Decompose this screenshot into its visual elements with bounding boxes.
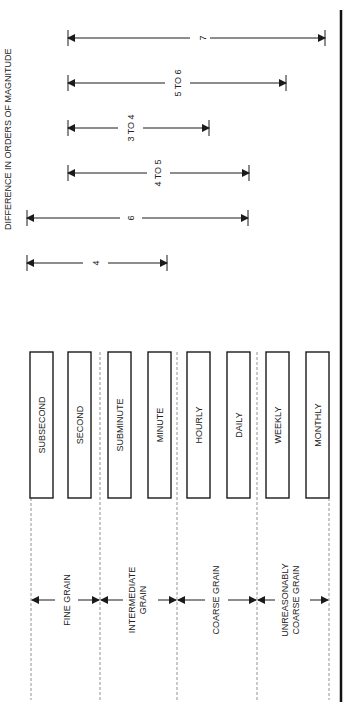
svg-text:MINUTE: MINUTE [155,408,165,443]
svg-text:COARSE GRAIN: COARSE GRAIN [211,565,221,634]
svg-text:SUBMINUTE: SUBMINUTE [115,398,125,451]
svg-text:FINE GRAIN: FINE GRAIN [62,574,72,626]
svg-text:4: 4 [91,260,101,265]
span-7 [68,30,325,46]
svg-text:7: 7 [198,35,208,40]
span-3-to-4 [68,120,209,136]
span-6 [27,210,248,226]
svg-text:WEEKLY: WEEKLY [273,407,283,444]
svg-text:5 TO 6: 5 TO 6 [173,69,183,96]
svg-text:SECOND: SECOND [75,405,85,444]
svg-text:INTERMEDIATE: INTERMEDIATE [127,567,137,633]
svg-text:MONTHLY: MONTHLY [313,403,323,446]
axis-title: DIFFERENCE IN ORDERS OF MAGNITUDE [3,48,13,230]
svg-text:6: 6 [126,215,136,220]
svg-text:COARSE GRAIN: COARSE GRAIN [291,565,301,634]
svg-text:GRAIN: GRAIN [138,586,148,615]
granularity-diagram: DIFFERENCE IN ORDERS OF MAGNITUDE [0,0,351,704]
svg-text:3 TO 4: 3 TO 4 [126,114,136,141]
span-labels: 7 5 TO 6 3 TO 4 4 TO 5 6 4 [91,35,208,265]
svg-text:HOURLY: HOURLY [194,407,204,444]
svg-text:4 TO 5: 4 TO 5 [153,159,163,186]
svg-text:UNREASONABLY: UNREASONABLY [280,563,290,636]
svg-text:SUBSECOND: SUBSECOND [37,396,47,454]
span-arrows [27,30,325,271]
svg-text:DAILY: DAILY [234,412,244,437]
